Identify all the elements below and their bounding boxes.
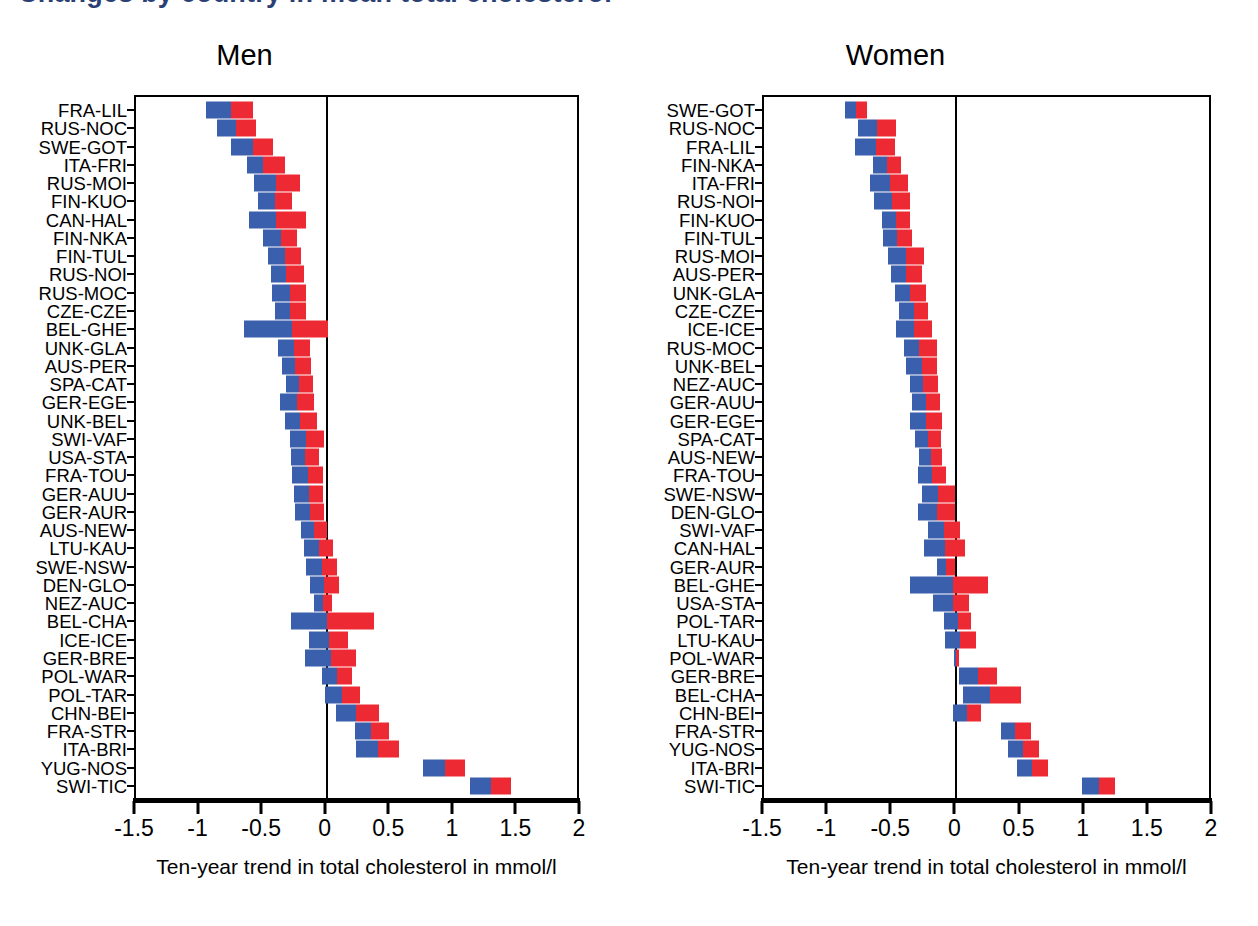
y-axis-tick [755, 328, 764, 330]
bar-segment-upper [906, 248, 924, 265]
y-axis-label: UNK-GLA [45, 338, 127, 357]
bar-segment-lower [247, 156, 264, 173]
bar-segment-upper [290, 303, 307, 320]
y-axis-tick [127, 474, 136, 476]
y-axis-tick [127, 694, 136, 696]
bar-row: CHN-BEI [764, 704, 1209, 722]
bar-segment-upper [292, 321, 328, 338]
x-axis-tick [260, 801, 263, 814]
bar-segment-upper [931, 449, 943, 466]
bar-row: NEZ-AUC [764, 375, 1209, 393]
plot-area-women: SWE-GOTRUS-NOCFRA-LILFIN-NKAITA-FRIRUS-N… [762, 95, 1211, 801]
bar-row: BEL-GHE [136, 320, 577, 338]
bar-segment-lower [959, 668, 978, 685]
y-axis-tick [127, 767, 136, 769]
y-axis-tick [127, 438, 136, 440]
bar-row: CZE-CZE [136, 302, 577, 320]
y-axis-tick [755, 456, 764, 458]
bar-segment-upper [356, 704, 379, 721]
bar-segment-lower [249, 211, 276, 228]
bar-segment-upper [231, 102, 253, 119]
y-axis-tick [755, 584, 764, 586]
bar-segment-lower [933, 595, 952, 612]
bar-segment-lower [286, 376, 299, 393]
bar-row: LTU-KAU [136, 539, 577, 557]
y-axis-tick [127, 255, 136, 257]
bar-segment-upper [919, 339, 937, 356]
y-axis-tick [127, 383, 136, 385]
y-axis-label: SPA-CAT [678, 429, 755, 448]
bar-segment-upper [337, 668, 352, 685]
bar-segment-upper [263, 156, 285, 173]
bar-segment-upper [286, 266, 304, 283]
bar-rows-men: FRA-LILRUS-NOCSWE-GOTITA-FRIRUS-MOIFIN-K… [136, 97, 577, 799]
bar-row: FRA-LIL [136, 101, 577, 119]
bar-segment-upper [295, 357, 312, 374]
bar-row: RUS-MOC [136, 284, 577, 302]
bar-row: ICE-ICE [136, 631, 577, 649]
bar-segment-upper [276, 211, 307, 228]
y-axis-tick [755, 566, 764, 568]
bar-row: FRA-TOU [136, 466, 577, 484]
y-axis-tick [127, 109, 136, 111]
y-axis-label: UNK-BEL [675, 356, 755, 375]
bar-segment-upper [491, 777, 511, 794]
x-axis-tick [323, 801, 326, 814]
x-axis-tick-label: 2 [573, 815, 586, 841]
bar-segment-lower [1082, 777, 1099, 794]
bar-segment-lower [928, 522, 943, 539]
bar-segment-upper [342, 686, 360, 703]
bar-segment-upper [877, 120, 896, 137]
y-axis-label: BEL-GHE [46, 320, 127, 339]
y-axis-label: RUS-MOI [47, 174, 127, 193]
y-axis-label: RUS-MOI [675, 247, 755, 266]
y-axis-tick [127, 164, 136, 166]
bar-segment-upper [327, 613, 374, 630]
y-axis-label: SWI-VAF [51, 429, 127, 448]
bar-segment-lower [217, 120, 236, 137]
y-axis-label: SWE-GOT [667, 101, 755, 120]
bar-segment-lower [855, 138, 876, 155]
bar-segment-lower [271, 266, 286, 283]
bar-row: FIN-KUO [764, 211, 1209, 229]
y-axis-tick [755, 712, 764, 714]
bar-segment-lower [292, 467, 307, 484]
bar-segment-lower [888, 248, 906, 265]
bar-row: FIN-NKA [764, 156, 1209, 174]
bar-row: BEL-CHA [136, 612, 577, 630]
panel-title-women: Women [581, 38, 1210, 72]
bar-segment-lower [944, 613, 958, 630]
y-axis-label: SWE-NSW [36, 557, 127, 576]
bar-segment-upper [887, 156, 901, 173]
bar-row: AUS-NEW [136, 521, 577, 539]
y-axis-tick [755, 767, 764, 769]
y-axis-tick [755, 748, 764, 750]
y-axis-label: GER-BRE [43, 649, 127, 668]
y-axis-tick [755, 255, 764, 257]
bar-segment-lower [870, 175, 889, 192]
bar-segment-upper [285, 248, 302, 265]
bar-row: FIN-TUL [764, 229, 1209, 247]
bar-segment-lower [325, 686, 342, 703]
y-axis-tick [127, 584, 136, 586]
bar-row: POL-WAR [764, 649, 1209, 667]
bar-row: RUS-NOC [136, 119, 577, 137]
y-axis-tick [127, 420, 136, 422]
y-axis-tick [755, 474, 764, 476]
x-axis-tick [514, 801, 517, 814]
bar-segment-upper [944, 522, 961, 539]
y-axis-tick [755, 273, 764, 275]
y-axis-tick [755, 730, 764, 732]
bar-segment-lower [254, 175, 276, 192]
bar-segment-lower [470, 777, 490, 794]
bar-segment-upper [906, 266, 921, 283]
bar-segment-lower [423, 759, 445, 776]
bar-segment-lower [294, 485, 309, 502]
bar-segment-upper [960, 631, 975, 648]
bar-segment-upper [305, 449, 319, 466]
y-axis-tick [127, 748, 136, 750]
cut-off-heading-strip: Changes by country in mean total cholest… [0, 0, 1258, 14]
x-axis-tick [953, 801, 956, 814]
bar-row: FRA-TOU [764, 466, 1209, 484]
x-axis-tick [761, 801, 764, 814]
